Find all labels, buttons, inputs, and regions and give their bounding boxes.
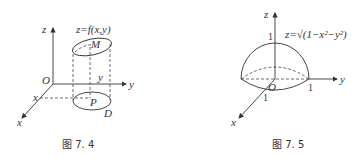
point-M-label: M [90, 38, 101, 50]
figure-7-5: z y x O 1 1 1 z=√(1−x²−y²) 图 7. 5 [230, 8, 347, 150]
x-tick-label: x [32, 91, 38, 103]
point-P-label: P [89, 96, 97, 108]
origin-label: O [42, 74, 50, 86]
caption-7-4: 图 7. 4 [62, 139, 94, 150]
x-axis-label: x [16, 116, 22, 128]
region-D-label: D [103, 107, 112, 119]
y-tick-label: y [97, 71, 103, 83]
y-axis-label: y [339, 73, 345, 85]
figures-canvas: z y x O z=f(x,y) M x y P D 图 7. 4 z y [0, 0, 358, 158]
origin-label: O [268, 81, 276, 93]
y-axis-label: y [128, 78, 134, 90]
surface-label: z=√(1−x²−y²) [284, 28, 347, 41]
y-one-tick: 1 [308, 82, 313, 93]
caption-7-5: 图 7. 5 [272, 139, 304, 150]
z-axis-label: z [263, 8, 269, 20]
x-one-tick: 1 [263, 92, 268, 103]
surface-label: z=f(x,y) [75, 23, 111, 36]
x-axis-label: x [230, 116, 236, 128]
z-one-tick: 1 [268, 31, 273, 42]
figure-7-4: z y x O z=f(x,y) M x y P D 图 7. 4 [16, 23, 134, 150]
surface-inner-dash [75, 45, 92, 52]
z-axis-label: z [41, 23, 47, 35]
